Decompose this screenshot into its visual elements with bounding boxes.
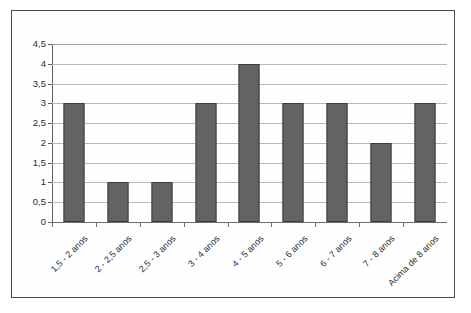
bar[interactable] [63, 103, 84, 222]
x-axis-tick [271, 222, 272, 227]
bar-slot [271, 44, 315, 222]
x-axis-tick [140, 222, 141, 227]
y-axis-tick [48, 123, 52, 124]
y-axis-tick [48, 44, 52, 45]
bar[interactable] [415, 103, 436, 222]
y-axis-label: 4,5 [33, 39, 46, 49]
bar-slot [228, 44, 272, 222]
y-axis-label: 2,5 [33, 118, 46, 128]
y-axis-tick [48, 143, 52, 144]
x-axis-tick [403, 222, 404, 227]
y-axis-label: 3 [41, 98, 46, 108]
bar-slot [403, 44, 447, 222]
y-axis-label: 1,5 [33, 158, 46, 168]
x-axis-tick [184, 222, 185, 227]
x-axis-tick [96, 222, 97, 227]
y-axis-label: 0,5 [33, 197, 46, 207]
y-axis-tick [48, 182, 52, 183]
y-axis-label: 1 [41, 177, 46, 187]
bar[interactable] [327, 103, 348, 222]
gridline [52, 222, 447, 223]
y-axis-label: 2 [41, 138, 46, 148]
y-axis-label: 0 [41, 217, 46, 227]
bar-slot [140, 44, 184, 222]
bar[interactable] [195, 103, 216, 222]
bar-slot [184, 44, 228, 222]
bar[interactable] [107, 182, 128, 222]
bar[interactable] [239, 64, 260, 222]
y-axis-tick [48, 64, 52, 65]
bar[interactable] [371, 143, 392, 222]
bar[interactable] [283, 103, 304, 222]
y-axis-label: 4 [41, 59, 46, 69]
bar[interactable] [151, 182, 172, 222]
y-axis-label: 3,5 [33, 79, 46, 89]
bar-slot [52, 44, 96, 222]
x-axis-tick [359, 222, 360, 227]
bar-slot [359, 44, 403, 222]
y-axis-tick [48, 202, 52, 203]
bar-slot [96, 44, 140, 222]
x-axis-tick [228, 222, 229, 227]
y-axis-tick [48, 103, 52, 104]
y-axis-tick-labels: 00,511,522,533,544,5 [0, 0, 46, 313]
y-axis-tick [48, 163, 52, 164]
plot-area [52, 44, 447, 222]
bar-chart: 00,511,522,533,544,5 1,5 - 2 anos2 - 2,5… [0, 0, 471, 313]
x-axis-tick [52, 222, 53, 227]
x-axis-tick [315, 222, 316, 227]
bar-slot [315, 44, 359, 222]
y-axis-tick [48, 84, 52, 85]
